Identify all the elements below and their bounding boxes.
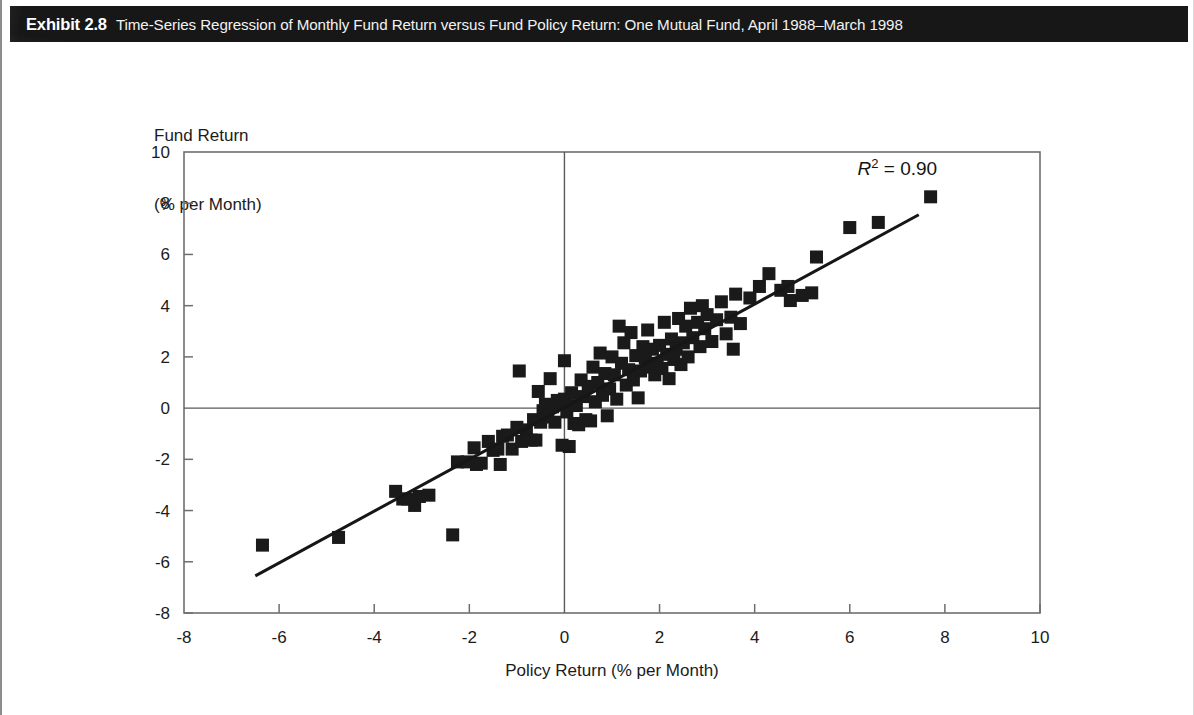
y-tick-label: 10 <box>151 143 170 162</box>
x-axis-title: Policy Return (% per Month) <box>184 661 1040 681</box>
regression-line <box>255 215 918 576</box>
page-frame: Exhibit 2.8 Time-Series Regression of Mo… <box>0 0 1194 715</box>
x-tick-label: 0 <box>560 628 569 647</box>
data-point <box>682 350 695 363</box>
x-tick-labels: -8-6-4-20246810 <box>176 628 1049 647</box>
exhibit-label: Exhibit 2.8 <box>26 15 107 34</box>
chart-annotations: R2 = 0.90 <box>858 156 938 180</box>
x-tick-label: 2 <box>655 628 664 647</box>
data-point <box>753 280 766 293</box>
data-point <box>762 267 775 280</box>
data-point <box>641 323 654 336</box>
data-point <box>663 372 676 385</box>
data-point <box>256 539 269 552</box>
data-point <box>705 335 718 348</box>
y-tick-label: 2 <box>161 348 170 367</box>
data-point <box>494 458 507 471</box>
y-tick-labels: -8-6-4-20246810 <box>151 143 170 623</box>
scatter-plot: -8-6-4-20246810 -8-6-4-20246810 R2 = 0.9… <box>2 42 1194 702</box>
x-tick-label: 10 <box>1031 628 1050 647</box>
exhibit-title: Time-Series Regression of Monthly Fund R… <box>116 16 903 33</box>
data-point <box>734 317 747 330</box>
y-tick-label: -4 <box>155 502 170 521</box>
data-point <box>475 457 488 470</box>
data-point <box>693 340 706 353</box>
data-point <box>565 386 578 399</box>
data-point <box>632 391 645 404</box>
data-point <box>684 302 697 315</box>
data-point <box>715 295 728 308</box>
x-tick-label: 4 <box>750 628 759 647</box>
data-point <box>679 320 692 333</box>
data-point <box>446 528 459 541</box>
x-tick-label: -8 <box>176 628 191 647</box>
y-tick-label: 0 <box>161 399 170 418</box>
regression-line-path <box>255 215 918 576</box>
data-point <box>532 385 545 398</box>
y-tick-label: 8 <box>161 194 170 213</box>
data-point <box>727 343 740 356</box>
data-point <box>658 316 671 329</box>
data-point <box>613 320 626 333</box>
data-point <box>513 364 526 377</box>
data-point <box>594 347 607 360</box>
exhibit-header: Exhibit 2.8 Time-Series Regression of Mo… <box>10 6 1188 42</box>
x-tick-label: 8 <box>940 628 949 647</box>
r-squared-annotation: R2 = 0.90 <box>858 156 938 180</box>
data-point <box>625 326 638 339</box>
y-tick-label: 6 <box>161 245 170 264</box>
data-point <box>584 414 597 427</box>
data-point <box>544 372 557 385</box>
data-point <box>924 190 937 203</box>
y-tick-label: 4 <box>161 297 170 316</box>
data-point <box>563 440 576 453</box>
data-point <box>843 221 856 234</box>
y-tick-label: -8 <box>155 604 170 623</box>
data-point <box>468 441 481 454</box>
data-point <box>529 434 542 447</box>
x-tick-label: -2 <box>462 628 477 647</box>
data-point <box>586 361 599 374</box>
y-tick-label: -2 <box>155 450 170 469</box>
data-point <box>548 416 561 429</box>
data-point <box>422 489 435 502</box>
data-point <box>601 409 614 422</box>
x-tick-label: 6 <box>845 628 854 647</box>
data-point <box>720 327 733 340</box>
x-tick-label: -6 <box>272 628 287 647</box>
x-tick-label: -4 <box>367 628 382 647</box>
data-point <box>558 354 571 367</box>
data-point <box>805 286 818 299</box>
chart-figure: Fund Return (% per Month) -8-6-4-2024681… <box>2 42 1194 702</box>
data-point <box>810 251 823 264</box>
data-point-group <box>256 190 937 551</box>
data-point <box>610 393 623 406</box>
y-tick-label: -6 <box>155 553 170 572</box>
data-point <box>872 216 885 229</box>
data-point <box>784 294 797 307</box>
data-point <box>729 288 742 301</box>
